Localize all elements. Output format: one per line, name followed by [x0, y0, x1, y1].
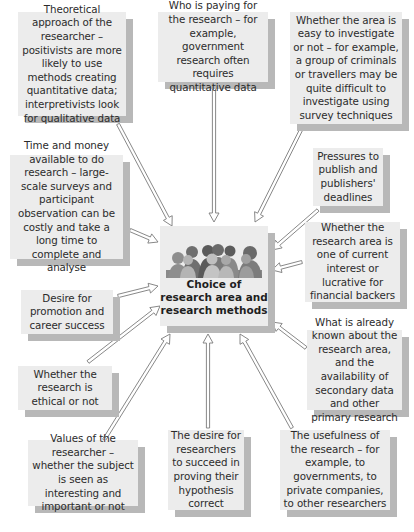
arrow-current-interest [272, 261, 302, 273]
factor-career-success: Desire for promotion and career success [21, 290, 113, 334]
factor-text: Whether the research is ethical or not [21, 368, 109, 409]
factor-text: What is already known about the research… [310, 316, 399, 425]
arrow-ease-of-investigation [255, 127, 304, 222]
factor-text: Desire for promotion and career success [24, 292, 110, 333]
factor-usefulness: The usefulness of the research – for exa… [280, 430, 390, 510]
arrow-who-is-paying [209, 88, 219, 222]
arrow-values [103, 334, 170, 441]
arrow-usefulness [240, 334, 293, 429]
arrow-time-and-money [129, 229, 158, 244]
arrow-prove-hypothesis [203, 334, 213, 428]
arrow-career-success [118, 283, 158, 297]
factor-text: Who is paying for the research – for exa… [161, 0, 265, 95]
factor-theoretical-approach: Theoretical approach of the researcher –… [18, 12, 126, 116]
factor-text: Time and money available to do research … [13, 139, 120, 275]
factor-text: Whether the area is easy to investigate … [293, 14, 399, 123]
factor-publishing-pressures: Pressures to publish and publishers' dea… [313, 148, 383, 206]
factor-prove-hypothesis: The desire for researchers to succeed in… [168, 430, 244, 510]
factor-text: Whether the research area is one of curr… [308, 221, 397, 303]
factor-ease-of-investigation: Whether the area is easy to investigate … [290, 12, 402, 124]
factor-time-and-money: Time and money available to do research … [10, 155, 123, 259]
factor-text: Pressures to publish and publishers' dea… [316, 150, 380, 204]
factor-who-is-paying: Who is paying for the research – for exa… [158, 12, 268, 82]
people-crowd-icon [166, 240, 262, 278]
factor-text: Values of the researcher – whether the s… [31, 432, 135, 514]
arrow-already-known [272, 322, 307, 349]
arrow-theoretical-approach [117, 123, 173, 226]
diagram: Theoretical approach of the researcher –… [0, 0, 414, 532]
factor-ethical: Whether the research is ethical or not [18, 366, 112, 410]
factor-text: The usefulness of the research – for exa… [283, 429, 387, 511]
factor-values: Values of the researcher – whether the s… [28, 440, 138, 506]
central-topic-title: Choice of research area and research met… [160, 278, 268, 317]
central-topic-box: Choice of research area and research met… [160, 226, 268, 326]
factor-text: Theoretical approach of the researcher –… [21, 3, 123, 125]
factor-already-known: What is already known about the research… [307, 330, 402, 410]
factor-current-interest: Whether the research area is one of curr… [305, 222, 400, 302]
factor-text: The desire for researchers to succeed in… [171, 429, 241, 511]
